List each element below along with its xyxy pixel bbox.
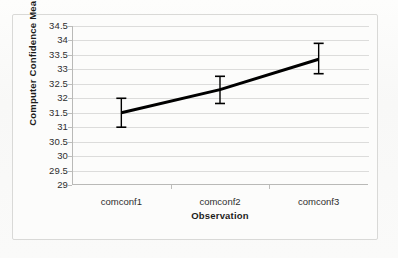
x-tick-label: comconf1: [71, 196, 171, 207]
x-tick-mark: [269, 185, 270, 189]
series-layer: [72, 26, 368, 185]
x-axis-title: Observation: [72, 210, 368, 221]
y-tick-label: 33: [28, 63, 68, 74]
y-tick-label: 32: [28, 92, 68, 103]
y-tick-label: 32.5: [28, 78, 68, 89]
error-bars: [116, 43, 323, 127]
y-tick-label: 30: [28, 150, 68, 161]
y-tick-label: 29.5: [28, 165, 68, 176]
x-tick-label: comconf3: [269, 196, 369, 207]
y-tick-label: 33.5: [28, 49, 68, 60]
line-chart: Computer Confidence Means 2929.53030.531…: [0, 0, 398, 258]
y-tick-mark: [68, 185, 72, 186]
chart-page: Computer Confidence Means 2929.53030.531…: [0, 0, 398, 258]
x-tick-mark: [171, 185, 172, 189]
y-tick-label: 30.5: [28, 136, 68, 147]
y-tick-label: 31: [28, 121, 68, 132]
y-tick-label: 34: [28, 34, 68, 45]
y-tick-label: 34.5: [28, 20, 68, 31]
x-tick-label: comconf2: [170, 196, 270, 207]
y-tick-label: 31.5: [28, 107, 68, 118]
y-tick-label: 29: [28, 179, 68, 190]
